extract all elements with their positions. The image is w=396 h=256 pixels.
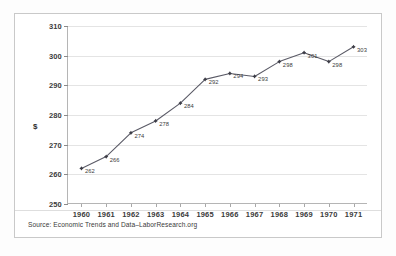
x-axis-tick-label: 1970 [320, 210, 338, 219]
x-axis-tick-label: 1967 [246, 210, 264, 219]
data-point-label: 303 [357, 47, 367, 53]
x-axis-tick-mark [131, 204, 132, 207]
series-line-chart [68, 26, 367, 204]
x-axis-tick-mark [354, 204, 355, 207]
data-point-label: 262 [85, 168, 95, 174]
x-axis-tick-mark [304, 204, 305, 207]
plot-area: 250260270280290300310 196019611962196319… [67, 26, 367, 204]
data-point-label: 293 [258, 76, 268, 82]
x-axis-tick-label: 1964 [172, 210, 190, 219]
y-axis-title: $ [33, 121, 37, 130]
data-point-label: 294 [233, 73, 243, 79]
x-axis-tick-label: 1965 [196, 210, 214, 219]
y-axis-tick-label: 310 [49, 22, 62, 31]
x-axis-tick-label: 1961 [97, 210, 115, 219]
data-point-label: 274 [134, 133, 144, 139]
series-markers-group [79, 45, 355, 171]
data-point-marker [79, 166, 83, 170]
x-axis-tick-mark [81, 204, 82, 207]
x-axis-tick-label: 1962 [122, 210, 140, 219]
x-axis-tick-mark [255, 204, 256, 207]
data-point-label: 278 [159, 121, 169, 127]
y-axis-tick-label: 250 [49, 200, 62, 209]
x-axis-tick-label: 1971 [345, 210, 363, 219]
series-polyline [81, 47, 353, 169]
data-point-label: 301 [308, 53, 318, 59]
data-point-label: 298 [283, 62, 293, 68]
y-axis-tick-label: 290 [49, 81, 62, 90]
chart-figure-frame: $ 250260270280290300310 1960196119621963… [14, 13, 382, 238]
x-axis-tick-mark [106, 204, 107, 207]
data-point-label: 298 [332, 62, 342, 68]
chart-screenshot: $ 250260270280290300310 1960196119621963… [0, 0, 396, 256]
x-axis-tick-mark [205, 204, 206, 207]
y-axis-tick-label: 270 [49, 140, 62, 149]
y-axis-tick-label: 300 [49, 51, 62, 60]
source-note: Source: Economic Trends and Data–LaborRe… [28, 221, 197, 228]
x-axis-tick-label: 1968 [271, 210, 289, 219]
y-axis-tick-mark [64, 204, 68, 205]
x-axis-tick-label: 1963 [147, 210, 165, 219]
data-point-label: 284 [184, 103, 194, 109]
data-point-marker [228, 71, 232, 75]
data-point-label: 266 [110, 157, 120, 163]
x-axis-tick-mark [230, 204, 231, 207]
x-axis-tick-label: 1969 [295, 210, 313, 219]
y-axis-tick-label: 260 [49, 170, 62, 179]
x-axis-tick-mark [279, 204, 280, 207]
data-point-label: 292 [209, 79, 219, 85]
x-axis-tick-mark [329, 204, 330, 207]
y-axis-tick-label: 280 [49, 111, 62, 120]
x-axis-tick-mark [180, 204, 181, 207]
x-axis-tick-mark [156, 204, 157, 207]
x-axis-tick-label: 1966 [221, 210, 239, 219]
source-divider [15, 210, 381, 211]
x-axis-tick-label: 1960 [73, 210, 91, 219]
data-point-marker [302, 51, 306, 55]
